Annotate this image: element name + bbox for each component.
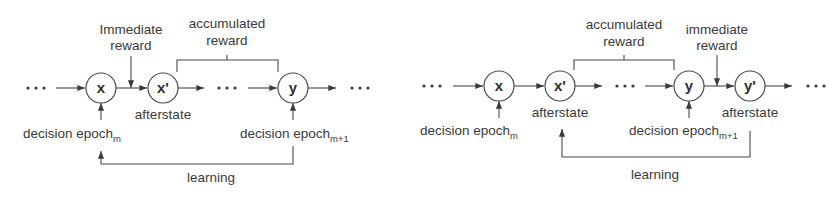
- diagram-right: x x' afterstate accumulated reward y imm…: [420, 17, 826, 182]
- node-yprime: y': [735, 71, 765, 101]
- node-xprime-label: x': [157, 79, 169, 96]
- node-xprime: x': [545, 71, 575, 101]
- accumulated-reward-line2: reward: [206, 33, 247, 48]
- afterstate-label-xprime: afterstate: [532, 105, 588, 120]
- node-x: x: [86, 73, 116, 103]
- learning-label: learning: [631, 167, 679, 182]
- node-y-label: y: [685, 77, 694, 94]
- immediate-reward-line2: reward: [110, 38, 151, 53]
- decision-epoch-m-label: decision epochm: [420, 123, 518, 141]
- ellipsis-right-middle: [615, 84, 634, 87]
- node-y: y: [674, 71, 704, 101]
- decision-epoch-m-label: decision epochm: [23, 126, 121, 144]
- afterstate-diagrams: x Immediate reward x' afterstate accumul…: [0, 0, 838, 201]
- node-xprime-label: x': [554, 77, 566, 94]
- accumulated-reward-bracket: [177, 55, 278, 72]
- immediate-reward-line1: immediate: [686, 22, 748, 37]
- decision-epoch-m1-label: decision epochm+1: [240, 126, 349, 144]
- accumulated-reward-line2: reward: [603, 34, 644, 49]
- ellipsis-right-end: [806, 84, 825, 87]
- diagram-left: x Immediate reward x' afterstate accumul…: [23, 16, 370, 185]
- decision-epoch-m1-label: decision epochm+1: [629, 123, 738, 141]
- learning-label: learning: [187, 170, 235, 185]
- afterstate-label-yprime: afterstate: [722, 105, 778, 120]
- ellipsis-right-start: [422, 84, 441, 87]
- learning-feedback-arrow: [101, 146, 293, 164]
- node-xprime: x': [148, 73, 178, 103]
- node-y-label: y: [289, 79, 298, 96]
- ellipsis-left-end: [350, 86, 369, 89]
- ellipsis-left-middle: [217, 86, 236, 89]
- node-y: y: [278, 73, 308, 103]
- ellipsis-left-start: [26, 86, 45, 89]
- afterstate-label: afterstate: [135, 107, 191, 122]
- immediate-reward-line2: reward: [696, 38, 737, 53]
- accumulated-reward-line1: accumulated: [189, 16, 266, 31]
- immediate-reward-line1: Immediate: [99, 22, 162, 37]
- accumulated-reward-bracket: [574, 55, 674, 70]
- accumulated-reward-line1: accumulated: [586, 17, 663, 32]
- node-x-label: x: [97, 79, 106, 96]
- node-x: x: [484, 71, 514, 101]
- node-yprime-label: y': [744, 77, 756, 94]
- node-x-label: x: [495, 77, 504, 94]
